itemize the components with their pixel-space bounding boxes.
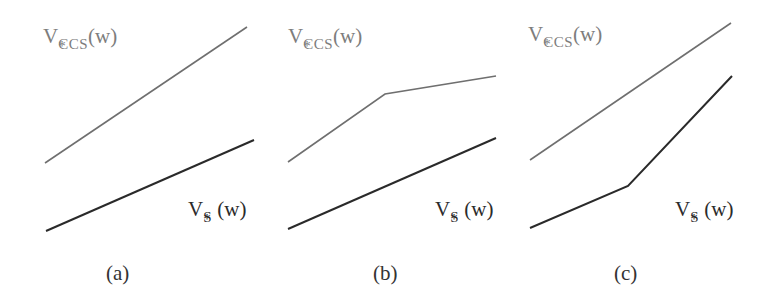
panel-a-caption: (a)	[106, 263, 129, 284]
label-sub: CCS	[303, 36, 333, 52]
label-arg: (w)	[464, 197, 493, 221]
panel-b-s-label: V*S (w)	[435, 199, 493, 220]
panel-b-ccs-line	[288, 76, 496, 162]
label-sub: S	[450, 209, 459, 225]
panel-c-s-label: V*S (w)	[675, 199, 733, 220]
label-base: V	[528, 22, 543, 46]
panel-b-caption: (b)	[373, 263, 398, 284]
label-arg: (w)	[573, 22, 602, 46]
label-sub: CCS	[543, 34, 573, 50]
panel-a-ccs-label: V*CCS(w)	[43, 26, 117, 47]
panel-c-caption: (c)	[614, 263, 637, 284]
label-arg: (w)	[704, 197, 733, 221]
panel-c-ccs-label: V*CCS(w)	[528, 24, 602, 45]
label-base: V	[43, 24, 58, 48]
label-base: V	[188, 197, 203, 221]
label-sub: S	[203, 209, 212, 225]
label-base: V	[288, 24, 303, 48]
label-base: V	[435, 197, 450, 221]
label-arg: (w)	[88, 24, 117, 48]
panel-b-ccs-label: V*CCS(w)	[288, 26, 362, 47]
label-base: V	[675, 197, 690, 221]
label-arg: (w)	[217, 197, 246, 221]
label-sub: S	[690, 209, 699, 225]
label-arg: (w)	[333, 24, 362, 48]
label-sub: CCS	[58, 36, 88, 52]
panel-a-s-label: V*S (w)	[188, 199, 246, 220]
